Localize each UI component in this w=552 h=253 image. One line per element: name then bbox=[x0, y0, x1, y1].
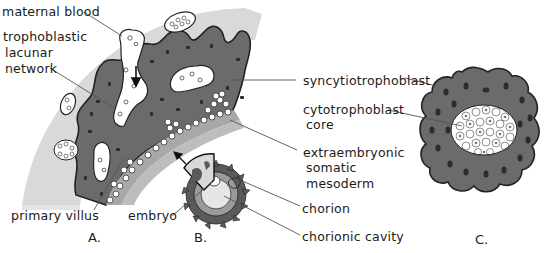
label-maternal-blood: maternal blood bbox=[2, 4, 100, 19]
leader-chorion bbox=[240, 180, 300, 206]
label-lacunar: lacunar bbox=[5, 45, 53, 60]
label-chorion: chorion bbox=[302, 201, 350, 216]
label-core: core bbox=[306, 117, 334, 132]
label-primary-villus: primary villus bbox=[11, 208, 99, 223]
label-trophoblastic: trophoblastic bbox=[3, 29, 87, 44]
panel-c-illustration bbox=[420, 67, 539, 191]
panel-label-c: C. bbox=[475, 232, 488, 247]
panel-label-a: A. bbox=[88, 230, 101, 245]
label-embryo: embryo bbox=[128, 208, 177, 223]
label-chorionic-cavity: chorionic cavity bbox=[302, 229, 404, 244]
label-syncytiotrophoblast: syncytiotrophoblast bbox=[303, 73, 430, 88]
label-mesoderm: mesoderm bbox=[306, 176, 374, 191]
panel-label-b: B. bbox=[194, 230, 207, 245]
label-network: network bbox=[5, 61, 57, 76]
panel-b-illustration bbox=[174, 152, 250, 229]
label-cytotrophoblast: cytotrophoblast bbox=[303, 102, 404, 117]
label-extraembryonic: extraembryonic bbox=[303, 145, 405, 160]
leader-extraembryonic-mesoderm bbox=[230, 120, 297, 150]
label-somatic: somatic bbox=[306, 160, 357, 175]
